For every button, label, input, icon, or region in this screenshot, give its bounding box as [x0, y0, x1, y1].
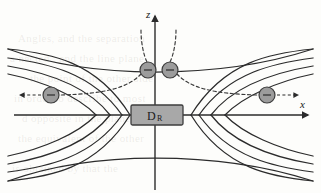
particle-left[interactable]	[43, 87, 59, 103]
particle-right[interactable]	[259, 87, 275, 103]
field-line-lower-left-4	[8, 115, 96, 156]
trajectory-incoming-right	[170, 30, 176, 62]
field-line-upper-right-2	[199, 58, 313, 115]
detector-box[interactable]: D R	[131, 105, 183, 125]
field-line-lower-right-4	[225, 115, 313, 156]
particle-upper-left[interactable]	[140, 62, 156, 78]
field-line-lower-left-1	[8, 115, 130, 181]
field-line-upper-left-1	[8, 49, 130, 115]
particle-upper-right[interactable]	[162, 62, 178, 78]
field-line-lower-right-2	[199, 115, 313, 172]
z-axis-label: z	[145, 8, 151, 20]
trajectory-incoming-left	[141, 30, 147, 62]
field-line-upper-right-1	[191, 49, 313, 115]
detector-label-main: D	[147, 109, 156, 123]
field-line-saddle-lower	[8, 158, 313, 181]
field-line-saddle-upper	[8, 49, 313, 72]
field-line-lower-right-1	[191, 115, 313, 181]
trajectory-outgoing-right	[177, 74, 258, 95]
figure-container: Angles, and the separation a nected ; an…	[0, 0, 321, 193]
field-line-upper-left-2	[8, 58, 122, 115]
field-line-lower-left-2	[8, 115, 122, 172]
x-axis-label: x	[299, 98, 305, 110]
field-line-diagram: z x D R	[0, 0, 321, 193]
detector-label-subscript: R	[157, 114, 163, 123]
